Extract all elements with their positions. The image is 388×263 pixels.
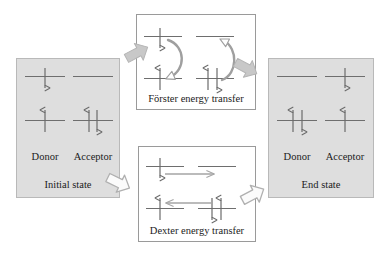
dexter-acceptor-excited-level	[198, 166, 236, 167]
forster-donor-ground-level	[144, 78, 182, 79]
forster-acceptor-excited-level	[196, 36, 234, 37]
end-donor-excited-level	[277, 76, 317, 77]
initial-acceptor-excited-level	[73, 76, 113, 77]
end-acceptor-excited-level	[325, 76, 365, 77]
initial-donor-excited-level	[25, 76, 65, 77]
end-donor-ground-level	[277, 120, 317, 121]
initial-acceptor-label: Acceptor	[66, 152, 120, 163]
panel-end-state	[268, 58, 374, 198]
end-donor-label: Donor	[272, 152, 322, 163]
forster-donor-excited-level	[144, 36, 182, 37]
dexter-process-label: Dexter energy transfer	[138, 226, 256, 237]
end-acceptor-ground-level	[325, 120, 365, 121]
end-acceptor-label: Acceptor	[318, 152, 372, 163]
initial-donor-ground-level	[25, 120, 65, 121]
panel-initial-state	[16, 58, 120, 198]
dexter-donor-ground-level	[146, 208, 184, 209]
end-state-label: End state	[268, 180, 374, 191]
initial-donor-label: Donor	[20, 152, 70, 163]
dexter-acceptor-ground-level	[198, 208, 236, 209]
forster-acceptor-ground-level	[196, 78, 234, 79]
energy-transfer-diagram: Donor Acceptor Initial state Förster ene…	[0, 0, 388, 263]
initial-acceptor-ground-level	[73, 120, 113, 121]
forster-process-label: Förster energy transfer	[136, 94, 256, 105]
initial-state-label: Initial state	[16, 180, 120, 191]
dexter-donor-excited-level	[146, 166, 184, 167]
